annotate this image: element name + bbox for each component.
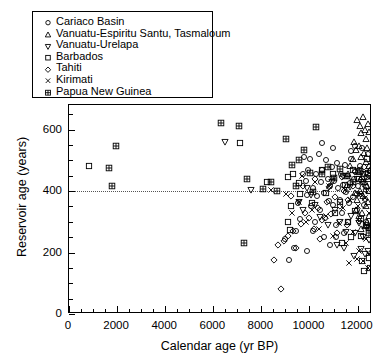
legend-item[interactable]: Cariaco Basin (33, 16, 212, 28)
data-point (243, 175, 251, 183)
data-point (362, 158, 370, 166)
x-tick-label: 8000 (248, 319, 274, 331)
data-points-layer (69, 105, 370, 312)
data-point (362, 135, 370, 143)
data-point (325, 197, 333, 205)
x-tick-label: 0 (65, 319, 71, 331)
data-point (338, 208, 346, 216)
data-point (299, 205, 307, 213)
data-point (356, 162, 364, 170)
data-point (364, 120, 370, 128)
y-tick-minor (69, 268, 73, 269)
y-tick-label: 600 (28, 123, 62, 135)
data-point (221, 138, 229, 146)
data-point (336, 218, 344, 226)
data-point (351, 207, 359, 215)
data-point (360, 195, 368, 203)
data-point (282, 189, 290, 197)
data-point (349, 228, 357, 236)
data-point (356, 167, 364, 175)
data-point (281, 235, 289, 243)
x-tick-label: 4000 (151, 319, 177, 331)
data-point (288, 161, 296, 169)
data-point (366, 165, 370, 173)
x-tick-minor (285, 309, 286, 313)
data-point (309, 188, 317, 196)
data-point (353, 175, 361, 183)
data-point (351, 167, 359, 175)
x-tick-minor (346, 309, 347, 313)
data-point (357, 225, 365, 233)
data-point (355, 219, 363, 227)
y-tick-minor (69, 145, 73, 146)
x-tick-minor (237, 309, 238, 313)
data-point (340, 186, 348, 194)
data-point (346, 179, 354, 187)
data-point (347, 147, 355, 155)
data-point (240, 239, 248, 247)
data-point (315, 150, 323, 158)
y-tick-label: 0 (28, 307, 62, 319)
data-point (311, 201, 319, 209)
data-point (331, 208, 339, 216)
data-point (341, 181, 349, 189)
data-point (354, 181, 362, 189)
data-point (335, 196, 343, 204)
data-point (329, 170, 337, 178)
data-point (324, 163, 332, 171)
data-point (359, 149, 367, 157)
data-point (360, 178, 368, 186)
data-point (365, 254, 370, 262)
data-point (317, 178, 325, 186)
data-point (357, 245, 365, 253)
y-tick-major (69, 253, 75, 254)
data-point (366, 167, 370, 175)
y-tick-minor (69, 160, 73, 161)
data-point (270, 256, 278, 264)
data-point (108, 181, 116, 189)
data-point (296, 215, 304, 223)
data-point (364, 150, 370, 158)
data-point (294, 199, 302, 207)
data-point (323, 198, 331, 206)
data-point (360, 267, 368, 275)
data-point (353, 202, 361, 210)
y-tick-major (69, 314, 75, 315)
data-point (363, 155, 370, 163)
data-point (314, 204, 322, 212)
data-point (352, 145, 360, 153)
data-point (351, 142, 359, 150)
data-point (303, 247, 311, 255)
data-point (342, 228, 350, 236)
data-point (289, 170, 297, 178)
y-tick-minor (69, 237, 73, 238)
legend-item[interactable]: Papua New Guinea (33, 86, 212, 98)
data-point (355, 175, 363, 183)
data-point (360, 163, 368, 171)
data-point (328, 178, 336, 186)
data-point (350, 252, 358, 260)
data-point (347, 155, 355, 163)
data-point (332, 221, 340, 229)
data-point (346, 196, 354, 204)
data-point (357, 215, 365, 223)
data-point (358, 173, 366, 181)
legend-item[interactable]: Kirimati (33, 74, 212, 86)
data-point (302, 177, 310, 185)
data-point (357, 190, 365, 198)
x-tick-major (358, 306, 359, 312)
data-point (320, 233, 328, 241)
data-point (365, 212, 370, 220)
data-point (322, 156, 330, 164)
data-point (363, 173, 370, 181)
data-point (312, 170, 320, 178)
data-point (298, 172, 306, 180)
data-point (328, 232, 336, 240)
data-point (326, 182, 334, 190)
data-point (234, 122, 242, 130)
data-point (356, 187, 364, 195)
x-tick-minor (177, 309, 178, 313)
data-point (359, 233, 367, 241)
data-point (356, 122, 364, 130)
data-point (291, 182, 299, 190)
